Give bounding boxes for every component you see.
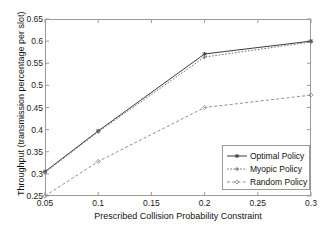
x-tick-label: 0.3 xyxy=(291,199,331,208)
chart-figure: 0.250.30.350.40.450.50.550.60.65 0.050.1… xyxy=(0,0,332,233)
x-tick-label: 0.25 xyxy=(238,199,278,208)
data-point-marker xyxy=(309,40,313,44)
x-tick-label: 0.2 xyxy=(185,199,225,208)
legend-line-sample-icon xyxy=(226,163,248,175)
chart-legend: Optimal PolicyMyopic PolicyRandom Policy xyxy=(222,145,310,190)
legend-item[interactable]: Optimal Policy xyxy=(223,149,309,162)
x-tick-label: 0.1 xyxy=(78,199,118,208)
x-tick-label: 0.05 xyxy=(25,199,65,208)
y-axis-title: Throughput (transmission percentage per … xyxy=(14,19,28,196)
data-point-marker xyxy=(309,93,313,97)
legend-line-sample-icon xyxy=(226,150,248,162)
legend-item[interactable]: Random Policy xyxy=(223,175,309,188)
x-tick-label: 0.15 xyxy=(131,199,171,208)
legend-line-sample-icon xyxy=(226,176,248,188)
x-axis-title: Prescribed Collision Probability Constra… xyxy=(45,211,311,221)
legend-label: Random Policy xyxy=(248,177,307,187)
legend-item[interactable]: Myopic Policy xyxy=(223,162,309,175)
legend-label: Myopic Policy xyxy=(248,164,302,174)
legend-label: Optimal Policy xyxy=(248,151,304,161)
